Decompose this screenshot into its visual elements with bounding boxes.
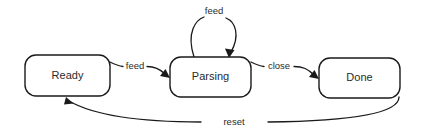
- state-label-parsing: Parsing: [192, 70, 229, 82]
- transition-ready-to-parsing: feed: [110, 60, 170, 78]
- transition-parsing-self-loop: feed: [191, 5, 236, 58]
- feed-edge-right-segment: [147, 67, 165, 75]
- state-diagram-canvas: reset feed feed close Ready: [0, 0, 423, 137]
- reset-arrowhead: [64, 97, 74, 105]
- feed-edge-left-segment: [110, 62, 123, 67]
- self-loop-left-segment: [191, 17, 204, 57]
- state-diagram: reset feed feed close Ready: [0, 0, 423, 137]
- transition-label-feed-self: feed: [205, 5, 224, 16]
- close-edge-left-segment: [251, 62, 264, 67]
- transition-label-close: close: [268, 60, 290, 71]
- transition-label-reset: reset: [223, 116, 244, 127]
- reset-edge-right-segment: [268, 97, 399, 122]
- transition-done-to-ready: reset: [64, 97, 399, 127]
- close-edge-right-segment: [294, 67, 314, 76]
- reset-edge-left-segment: [69, 101, 201, 122]
- self-loop-right-segment: [226, 18, 236, 52]
- transition-parsing-to-done: close: [251, 60, 319, 79]
- state-node-done[interactable]: Done: [319, 58, 400, 98]
- state-label-done: Done: [346, 71, 372, 83]
- state-label-ready: Ready: [52, 69, 84, 81]
- transition-label-feed: feed: [126, 60, 145, 71]
- state-node-ready[interactable]: Ready: [25, 55, 110, 96]
- state-node-parsing[interactable]: Parsing: [170, 57, 251, 97]
